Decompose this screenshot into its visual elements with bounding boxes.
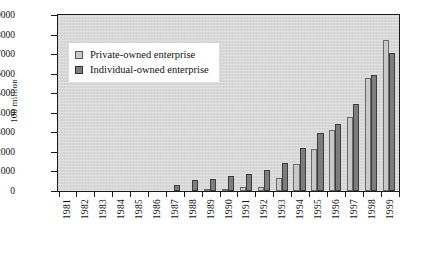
y-axis-tick-mark — [51, 93, 57, 94]
x-axis-tick-label: 1988 — [188, 199, 198, 219]
x-axis-tick-label: 1997 — [349, 199, 359, 219]
x-axis-tick-label: 1998 — [367, 199, 377, 219]
x-axis-tick-mark — [309, 192, 310, 197]
x-axis-tick-mark — [59, 192, 60, 197]
x-axis-tick-mark — [148, 192, 149, 197]
bar-individual-1995 — [317, 133, 323, 191]
y-axis-tick-label: 5000 — [0, 88, 15, 98]
bar-group — [112, 15, 130, 191]
x-axis-tick-mark — [291, 192, 292, 197]
x-axis-tick-mark — [166, 192, 167, 197]
legend-label-individual: Individual-owned enterprise — [90, 64, 209, 75]
bar-group — [130, 15, 148, 191]
x-axis-tick-mark — [273, 192, 274, 197]
y-axis-tick-mark — [51, 54, 57, 55]
x-axis-tick-mark — [255, 192, 256, 197]
bar-group — [94, 15, 112, 191]
bar-group — [59, 15, 77, 191]
bar-group — [291, 15, 309, 191]
x-axis-tick-mark — [94, 192, 95, 197]
x-axis-tick-label: 1982 — [80, 199, 90, 219]
legend-swatch-private-icon — [75, 51, 83, 59]
bar-group — [220, 15, 238, 191]
y-axis-tick-label: 8000 — [0, 30, 15, 40]
y-axis-tick-mark — [51, 171, 57, 172]
x-axis-tick-label: 1990 — [224, 199, 234, 219]
bar-group — [237, 15, 255, 191]
y-axis-tick-label: 0 — [10, 186, 15, 196]
x-axis-tick-label: 1993 — [277, 199, 287, 219]
bar-individual-1992 — [264, 170, 270, 192]
bar-group — [148, 15, 166, 191]
bar-individual-1996 — [335, 124, 341, 191]
y-axis-tick-label: 4000 — [0, 108, 15, 118]
bar-group — [202, 15, 220, 191]
x-axis-tick-label: 1994 — [295, 199, 305, 219]
x-axis-tick-label: 1996 — [331, 199, 341, 219]
y-axis-tick-mark — [51, 35, 57, 36]
y-axis-tick-label: 6000 — [0, 69, 15, 79]
bar-group — [76, 15, 94, 191]
x-axis-tick-label: 1987 — [170, 199, 180, 219]
bar-group — [309, 15, 327, 191]
x-axis-tick-label: 1995 — [313, 199, 323, 219]
y-axis-tick-label: 2000 — [0, 147, 15, 157]
bar-group — [345, 15, 363, 191]
y-axis-tick-label: 7000 — [0, 49, 15, 59]
bar-individual-1997 — [353, 104, 359, 191]
bar-individual-1987 — [174, 185, 180, 191]
x-axis-tick-label: 1992 — [259, 199, 269, 219]
bar-series-container — [59, 15, 399, 191]
y-axis-tick-mark — [51, 191, 57, 192]
bar-individual-1998 — [371, 75, 377, 191]
x-axis-tick-label: 1986 — [152, 199, 162, 219]
x-axis-tick-label: 1984 — [116, 199, 126, 219]
bar-group — [363, 15, 381, 191]
x-axis-tick-mark — [363, 192, 364, 197]
x-axis-tick-mark — [112, 192, 113, 197]
legend-label-private: Private-owned enterprise — [90, 49, 195, 60]
y-axis-tick-label: 3000 — [0, 127, 15, 137]
x-axis-tick-mark — [220, 192, 221, 197]
legend-swatch-individual-icon — [75, 66, 83, 74]
bar-chart: 100 million 1981198219831984198519861987… — [0, 0, 422, 258]
y-axis-tick-label: 1000 — [0, 166, 15, 176]
y-axis-tick-mark — [51, 15, 57, 16]
x-axis-tick-mark — [399, 192, 400, 197]
y-axis-tick-label: 9000 — [0, 10, 15, 20]
bar-group — [327, 15, 345, 191]
x-axis-tick-label: 1981 — [62, 199, 72, 219]
y-axis-tick-mark — [51, 132, 57, 133]
x-axis-tick-mark — [202, 192, 203, 197]
x-axis-tick-label: 1985 — [134, 199, 144, 219]
bar-individual-1999 — [389, 53, 395, 191]
bar-individual-1989 — [210, 179, 216, 192]
y-axis-tick-mark — [51, 152, 57, 153]
x-axis-tick-mark — [237, 192, 238, 197]
y-axis-tick-mark — [51, 74, 57, 75]
x-axis-tick-label: 1989 — [206, 199, 216, 219]
x-axis-tick-labels: 1981198219831984198519861987198819891990… — [59, 199, 399, 255]
x-axis-tick-mark — [327, 192, 328, 197]
bar-individual-1993 — [282, 163, 288, 191]
x-axis-tick-mark — [130, 192, 131, 197]
y-axis-tick-mark — [51, 113, 57, 114]
legend-item-private: Private-owned enterprise — [75, 47, 209, 62]
x-axis-tick-mark — [184, 192, 185, 197]
bar-individual-1991 — [246, 174, 252, 191]
bar-group — [381, 15, 399, 191]
x-axis-tick-label: 1991 — [241, 199, 251, 219]
bar-individual-1988 — [192, 180, 198, 191]
x-axis-tick-label: 1999 — [385, 199, 395, 219]
x-axis-tick-label: 1983 — [98, 199, 108, 219]
bar-individual-1990 — [228, 176, 234, 191]
bar-group — [273, 15, 291, 191]
bar-group — [166, 15, 184, 191]
bar-group — [255, 15, 273, 191]
x-axis-tick-mark — [345, 192, 346, 197]
x-axis-tick-mark — [76, 192, 77, 197]
x-axis-tick-mark — [381, 192, 382, 197]
bar-group — [184, 15, 202, 191]
bar-individual-1994 — [300, 148, 306, 191]
chart-legend: Private-owned enterprise Individual-owne… — [69, 43, 219, 82]
